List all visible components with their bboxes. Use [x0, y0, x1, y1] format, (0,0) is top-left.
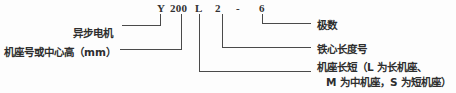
callout-pole-number: 极数	[317, 20, 337, 31]
callout-frame-length-line2: M 为中机座，S 为短机座）	[326, 77, 451, 88]
leader-line-core-length	[223, 14, 312, 48]
code-part-core: 2	[215, 3, 221, 14]
callout-async-motor: 异步电机	[73, 28, 113, 39]
motor-model-designation-diagram: Y 200 L 2 - 6 异步电机 机座号或中心高（mm） 极数 铁心长度号 …	[0, 0, 456, 93]
code-part-dash: -	[236, 3, 240, 14]
code-part-poles: 6	[259, 3, 265, 14]
leader-line-async-motor	[122, 14, 161, 26]
code-part-length: L	[195, 3, 203, 14]
leader-line-frame-length	[200, 14, 312, 72]
code-part-height: 200	[170, 3, 187, 14]
callout-frame-length-line1: 机座长短（L 为长机座、	[317, 62, 427, 73]
callout-core-length-code: 铁心长度号	[317, 44, 367, 55]
leader-line-pole-number	[263, 14, 312, 24]
leader-line-frame-height	[120, 14, 182, 50]
callout-frame-or-center-height: 机座号或中心高（mm）	[4, 47, 116, 58]
code-part-brand: Y	[157, 3, 165, 14]
